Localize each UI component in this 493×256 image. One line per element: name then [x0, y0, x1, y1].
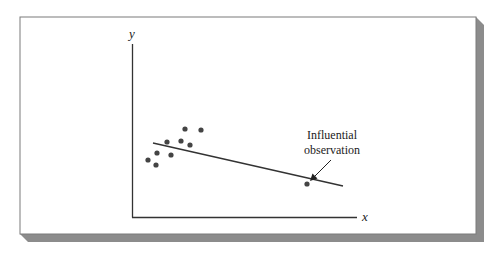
data-point [187, 142, 192, 147]
frame [20, 17, 476, 234]
figure: y x Influential observation [0, 0, 493, 256]
data-point [164, 139, 169, 144]
data-point [153, 162, 158, 167]
y-axis-label: y [127, 26, 135, 41]
influential-point [304, 181, 309, 186]
data-point [198, 127, 203, 132]
data-point [168, 152, 173, 157]
scatter-diagram: y x Influential observation [0, 0, 493, 256]
x-axis-label: x [361, 209, 368, 224]
data-point [145, 157, 150, 162]
data-point [182, 126, 187, 131]
data-point [178, 138, 183, 143]
data-point [154, 150, 159, 155]
annotation-line-1: Influential [307, 128, 358, 142]
annotation-line-2: observation [304, 143, 360, 157]
